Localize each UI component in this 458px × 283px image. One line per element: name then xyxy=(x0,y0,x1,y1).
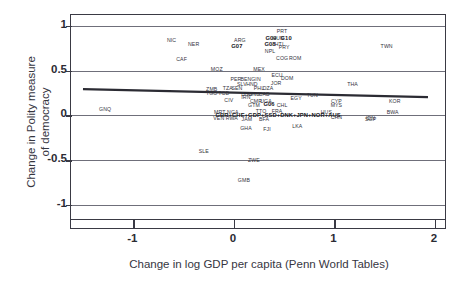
y-gridline xyxy=(71,26,445,27)
data-point-label: NER xyxy=(188,41,199,47)
x-tick-label: 2 xyxy=(431,232,437,244)
plot-area: 10.50-0.5-1NICNERCAFARGG07PRTG09HUNG10G0… xyxy=(70,14,446,220)
data-point-label: GHA xyxy=(240,125,252,131)
data-point-label: DOM xyxy=(281,75,293,81)
data-point-label: CHL xyxy=(277,102,288,108)
data-point-label: BWA xyxy=(387,109,399,115)
data-point-label: LKA xyxy=(292,123,302,129)
data-point-label: EGY xyxy=(291,95,302,101)
y-tick-label: -0.5 xyxy=(45,152,67,164)
x-axis-tick-box xyxy=(70,220,446,229)
x-tick-mark xyxy=(234,220,236,229)
x-tick-label: 1 xyxy=(330,232,336,244)
data-point-label: GTM xyxy=(248,102,260,108)
data-point-label: MEX xyxy=(253,66,265,72)
data-point-label: BFA xyxy=(259,116,269,122)
data-point-label: MYS xyxy=(331,102,343,108)
data-point-label: ZWE xyxy=(248,157,260,163)
data-point-label: FJI xyxy=(263,126,271,132)
data-point-label: COG xyxy=(276,55,288,61)
data-point-label: G06 xyxy=(263,101,274,107)
data-point-label: NPL xyxy=(265,48,275,54)
data-point-label: THA xyxy=(347,81,358,87)
data-point-label: CAF xyxy=(176,56,187,62)
data-point-label: ROM xyxy=(289,55,301,61)
data-point-label: CIV xyxy=(224,97,233,103)
y-tick-label: 0 xyxy=(45,107,67,119)
data-point-label: GNQ xyxy=(99,106,111,112)
y-gridline xyxy=(71,205,445,206)
data-point-label: CAB xyxy=(259,91,270,97)
scatter-plot-figure: Change in Polity measure of democracy 10… xyxy=(0,0,458,283)
y-tick-label: -1 xyxy=(45,197,67,209)
data-point-label: TUN xyxy=(307,92,318,98)
x-tick-mark xyxy=(334,220,336,229)
data-point-label: RWA xyxy=(226,115,238,121)
x-tick-label: 0 xyxy=(230,232,236,244)
data-point-label: CHN xyxy=(331,114,343,120)
x-axis-title: Change in log GDP per capita (Penn World… xyxy=(60,258,458,270)
y-tick-label: 1 xyxy=(45,18,67,30)
x-tick-mark xyxy=(133,220,135,229)
data-point-label: G07 xyxy=(231,43,242,49)
data-point-label: PRY xyxy=(279,44,290,50)
data-point-label: PRT xyxy=(277,28,288,34)
data-point-label: MOZ xyxy=(211,66,223,72)
data-point-label: SLE xyxy=(199,148,209,154)
data-point-label: TCD xyxy=(218,90,229,96)
data-point-label: TWN xyxy=(381,43,393,49)
data-point-label: NIC xyxy=(167,37,176,43)
data-point-label: TGO xyxy=(206,90,218,96)
x-tick-label: -1 xyxy=(127,232,137,244)
data-point-label: JAM xyxy=(242,116,253,122)
x-tick-mark xyxy=(435,220,437,229)
data-point-label: GMB xyxy=(238,177,250,183)
y-tick-label: 0.5 xyxy=(45,63,67,75)
data-point-label: ARG xyxy=(234,37,246,43)
data-point-label: SGP xyxy=(365,116,376,122)
data-point-label: KOR xyxy=(389,98,401,104)
data-point-label: VEN xyxy=(213,115,224,121)
y-axis-title: Change in Polity measure of democracy xyxy=(24,32,52,212)
